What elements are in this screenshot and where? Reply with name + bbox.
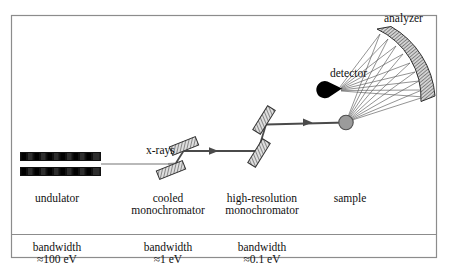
column-label-hires-line2: monochromator [225,204,298,216]
bandwidth-undulator-line2: ≈100 eV [33,253,82,265]
figure-canvas: analyzer detector x-rays undulator coole… [0,0,450,270]
bandwidth-undulator-line1: bandwidth [33,241,82,253]
analyzer-label: analyzer [384,12,423,24]
column-label-sample-line1: sample [334,192,367,204]
column-label-sample: sample [334,192,367,204]
bandwidth-cooled-line1: bandwidth [144,241,193,253]
x-rays-label: x-rays [146,144,175,156]
column-label-undulator: undulator [35,192,79,204]
beamline-schematic [0,0,450,270]
figure-frame [12,16,437,258]
column-label-cooled-monochromator: cooled monochromator [131,192,204,217]
bandwidth-cooled-line2: ≈1 eV [144,253,193,265]
bandwidth-hires-line1: bandwidth [238,241,287,253]
detector-label: detector [330,67,367,79]
column-label-high-resolution-monochromator: high-resolution monochromator [225,192,298,217]
column-label-hires-line1: high-resolution [225,192,298,204]
bandwidth-high-resolution-monochromator: bandwidth ≈0.1 eV [238,241,287,266]
column-label-undulator-line1: undulator [35,192,79,204]
bandwidth-cooled-monochromator: bandwidth ≈1 eV [144,241,193,266]
bandwidth-undulator: bandwidth ≈100 eV [33,241,82,266]
bandwidth-hires-line2: ≈0.1 eV [238,253,287,265]
column-label-cooled-line2: monochromator [131,204,204,216]
column-label-cooled-line1: cooled [131,192,204,204]
